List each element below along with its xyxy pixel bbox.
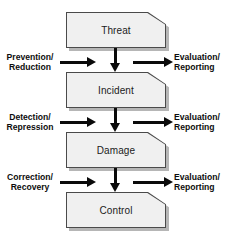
arrow-head: [110, 123, 120, 132]
arrow-shaft: [60, 61, 87, 64]
process-box-label: Control: [66, 192, 166, 228]
arrow-head: [164, 117, 173, 127]
row-label-correction-recovery: Correction/ Recovery: [0, 172, 60, 193]
row-label-line2: Recovery: [0, 182, 60, 192]
row-label-prevention-reduction: Prevention/ Reduction: [0, 52, 60, 73]
arrow-shaft: [133, 181, 164, 184]
arrow-right-icon: [60, 57, 96, 68]
row-label-line2: Repression: [0, 122, 60, 132]
arrow-head: [87, 177, 96, 187]
process-box-label: Threat: [66, 12, 166, 48]
arrow-right-icon: [133, 57, 173, 68]
row-label-line1: Evaluation/: [174, 112, 235, 122]
arrow-down-icon: [110, 48, 121, 72]
arrow-right-icon: [133, 117, 173, 128]
process-box-label: Incident: [66, 72, 166, 108]
row-label-detection-repression: Detection/ Repression: [0, 112, 60, 133]
row-label-line2: Reduction: [0, 62, 60, 72]
row-label-line1: Evaluation/: [174, 172, 235, 182]
row-label-line2: Reporting: [174, 182, 235, 192]
arrow-right-icon: [60, 117, 96, 128]
row-label-line1: Prevention/: [0, 52, 60, 62]
arrow-head: [164, 57, 173, 67]
row-label-evaluation-reporting: Evaluation/ Reporting: [174, 52, 235, 73]
row-label-line2: Reporting: [174, 62, 235, 72]
process-box-label: Damage: [66, 132, 166, 168]
arrow-shaft: [114, 48, 117, 63]
process-flow-diagram: Threat Prevention/ Reduction Evaluation/…: [0, 0, 235, 241]
row-label-line1: Evaluation/: [174, 52, 235, 62]
process-box-control[interactable]: Control: [66, 192, 166, 228]
arrow-head: [110, 63, 120, 72]
process-box-threat[interactable]: Threat: [66, 12, 166, 48]
process-box-damage[interactable]: Damage: [66, 132, 166, 168]
row-label-evaluation-reporting: Evaluation/ Reporting: [174, 172, 235, 193]
arrow-head: [110, 183, 120, 192]
row-label-line1: Detection/: [0, 112, 60, 122]
process-box-incident[interactable]: Incident: [66, 72, 166, 108]
arrow-shaft: [133, 121, 164, 124]
row-label-evaluation-reporting: Evaluation/ Reporting: [174, 112, 235, 133]
arrow-head: [164, 177, 173, 187]
arrow-down-icon: [110, 168, 121, 192]
row-label-line2: Reporting: [174, 122, 235, 132]
arrow-shaft: [60, 121, 87, 124]
arrow-head: [87, 117, 96, 127]
arrow-head: [87, 57, 96, 67]
arrow-right-icon: [133, 177, 173, 188]
arrow-shaft: [114, 108, 117, 123]
arrow-shaft: [60, 181, 87, 184]
arrow-right-icon: [60, 177, 96, 188]
arrow-down-icon: [110, 108, 121, 132]
row-label-line1: Correction/: [0, 172, 60, 182]
arrow-shaft: [133, 61, 164, 64]
arrow-shaft: [114, 168, 117, 183]
